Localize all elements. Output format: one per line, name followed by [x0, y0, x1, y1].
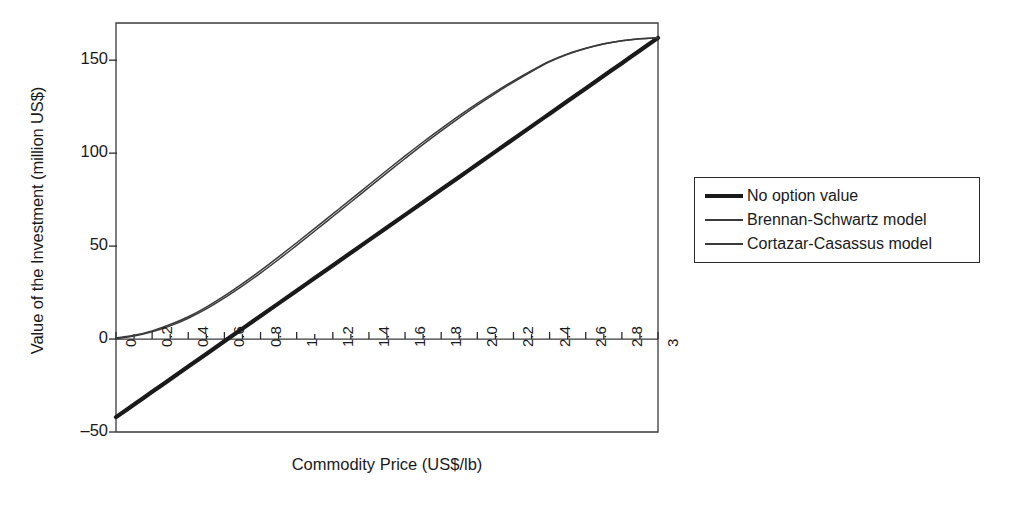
y-tick-label: 150 [50, 49, 108, 68]
legend-label: Brennan-Schwartz model [747, 212, 927, 228]
x-tick-label: 2.0 [483, 326, 500, 347]
x-tick-label: 1.6 [411, 326, 428, 347]
legend-line-swatch-thin [705, 213, 743, 227]
y-tick-label: 100 [50, 142, 108, 161]
x-tick-label: 1.4 [375, 326, 392, 347]
legend-label: No option value [747, 188, 858, 204]
tick-marks [109, 60, 658, 432]
legend-label: Cortazar-Casassus model [747, 236, 932, 252]
legend-line-swatch-thick [705, 189, 743, 203]
legend-item: Brennan-Schwartz model [695, 208, 979, 232]
chart-legend: No option value Brennan-Schwartz model C… [694, 177, 980, 263]
x-tick-label: 2.2 [519, 326, 536, 347]
x-tick-label: 0.8 [267, 326, 284, 347]
y-tick-label: 50 [50, 235, 108, 254]
x-tick-label: 3 [664, 339, 681, 347]
legend-item: Cortazar-Casassus model [695, 232, 979, 256]
x-tick-label: 0 [122, 339, 139, 347]
figure-container: Value of the Investment (million US$) Co… [0, 0, 1017, 511]
y-axis-title-text: Value of the Investment (million US$) [29, 86, 48, 353]
legend-item: No option value [695, 184, 979, 208]
x-tick-label: 2.4 [556, 326, 573, 347]
x-tick-label: 0.2 [158, 326, 175, 347]
y-tick-label: 0 [50, 328, 108, 347]
x-axis-title: Commodity Price (US$/lb) [116, 455, 658, 474]
x-tick-label: 2.8 [628, 326, 645, 347]
x-tick-label: 2.6 [592, 326, 609, 347]
x-tick-label: 1.8 [447, 326, 464, 347]
legend-line-swatch-thin [705, 237, 743, 251]
y-tick-label: –50 [50, 421, 108, 440]
x-tick-label: 1 [303, 339, 320, 347]
x-tick-label: 0.6 [230, 326, 247, 347]
series-lines [116, 38, 658, 417]
x-tick-label: 1.2 [339, 326, 356, 347]
x-tick-label: 0.4 [194, 326, 211, 347]
